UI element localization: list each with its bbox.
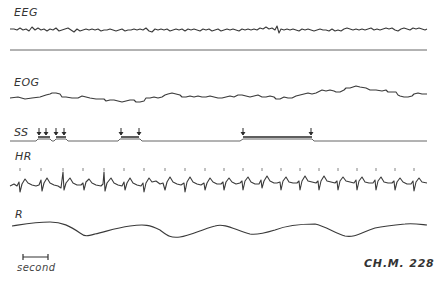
traces-canvas [0, 0, 441, 283]
hr-trace [10, 172, 427, 192]
eeg-trace [10, 26, 427, 33]
r-trace [12, 222, 427, 237]
figure-id-label: CH.M. 228 [364, 257, 435, 270]
eog-trace [10, 86, 427, 102]
polygraph-figure: EEG EOG SS HR R [0, 0, 441, 283]
scale-bar [23, 254, 48, 260]
scale-bar-label: second [17, 262, 56, 273]
hr-tick-marks [20, 168, 414, 171]
ss-trace [10, 139, 427, 141]
ss-arrow-icons [37, 128, 313, 135]
